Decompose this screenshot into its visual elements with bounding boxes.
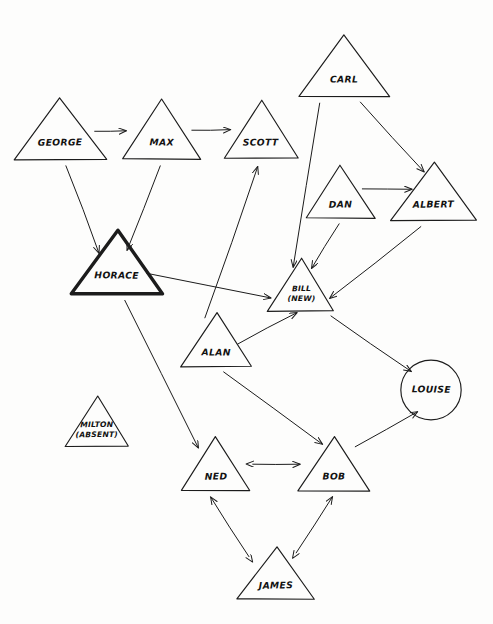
node-max[interactable]: MAX xyxy=(123,99,201,159)
edge-line xyxy=(192,130,231,131)
node-james[interactable]: JAMES xyxy=(237,547,314,599)
triangle-shape xyxy=(306,165,375,218)
edge-line xyxy=(312,224,339,268)
node-alan[interactable]: ALAN xyxy=(181,313,252,367)
node-sublabel: (ABSENT) xyxy=(76,430,118,439)
triangle-shape xyxy=(299,35,390,97)
node-layer: GEORGEMAXSCOTTCARLDANALBERTHORACEBILL(NE… xyxy=(14,35,476,599)
edge-line xyxy=(205,167,258,318)
node-label: MILTON xyxy=(80,420,114,429)
edge-carl-to-albert xyxy=(360,102,424,172)
edge-line xyxy=(360,102,424,172)
edge-george-to-horace xyxy=(66,166,99,253)
edge-line xyxy=(296,497,332,553)
edge-layer xyxy=(66,102,424,557)
node-label: ALBERT xyxy=(412,198,455,210)
node-horace[interactable]: HORACE xyxy=(71,230,162,294)
edge-james-to-bob xyxy=(296,497,332,553)
edge-line xyxy=(238,313,297,344)
node-louise[interactable]: LOUISE xyxy=(401,360,461,420)
triangle-shape xyxy=(14,98,107,160)
diagram-canvas: GEORGEMAXSCOTTCARLDANALBERTHORACEBILL(NE… xyxy=(0,0,493,624)
edge-line xyxy=(66,166,99,253)
edge-line xyxy=(211,497,249,557)
node-bill[interactable]: BILL(NEW) xyxy=(267,258,333,311)
edge-line xyxy=(224,372,323,444)
triangle-shape xyxy=(391,162,477,220)
edge-line xyxy=(95,131,126,132)
edge-alan-to-bill xyxy=(238,313,297,344)
node-carl[interactable]: CARL xyxy=(299,35,390,97)
node-label: HORACE xyxy=(94,269,139,280)
edge-albert-to-bill xyxy=(330,227,421,299)
node-label: MAX xyxy=(149,136,174,147)
edge-line xyxy=(127,166,160,250)
triangle-shape xyxy=(71,230,162,294)
sociogram-svg: GEORGEMAXSCOTTCARLDANALBERTHORACEBILL(NE… xyxy=(0,0,493,624)
edge-bob-to-louise xyxy=(355,412,417,447)
edge-carl-to-bill xyxy=(293,103,320,267)
node-label: ALAN xyxy=(201,346,231,357)
node-label: NED xyxy=(205,470,228,481)
node-albert[interactable]: ALBERT xyxy=(391,162,477,220)
edge-line xyxy=(355,412,417,447)
edge-line xyxy=(293,103,320,267)
node-label: JAMES xyxy=(257,579,294,591)
node-label: BILL xyxy=(292,284,311,293)
edge-james-to-ned xyxy=(211,497,249,557)
node-label: DAN xyxy=(329,198,353,209)
edge-bill-to-louise xyxy=(331,316,411,371)
node-label: GEORGE xyxy=(38,136,83,147)
edge-max-to-horace xyxy=(127,166,160,250)
edge-line xyxy=(147,273,271,298)
node-label: SCOTT xyxy=(243,136,279,147)
edge-max-to-scott xyxy=(192,130,231,131)
triangle-shape xyxy=(181,437,249,491)
edge-line xyxy=(125,300,198,447)
triangle-shape xyxy=(224,100,298,158)
node-sublabel: (NEW) xyxy=(288,294,316,303)
edge-alan-to-bob xyxy=(224,372,323,444)
node-scott[interactable]: SCOTT xyxy=(224,100,298,158)
triangle-shape xyxy=(237,547,314,599)
edge-george-to-max xyxy=(95,131,126,132)
node-dan[interactable]: DAN xyxy=(306,165,375,218)
node-ned[interactable]: NED xyxy=(181,437,249,491)
edge-line xyxy=(331,316,411,371)
edge-alan-to-scott xyxy=(205,167,258,318)
edge-horace-to-ned xyxy=(125,300,198,447)
node-george[interactable]: GEORGE xyxy=(14,98,107,160)
triangle-shape xyxy=(181,313,252,367)
node-label: BOB xyxy=(323,470,346,481)
edge-line xyxy=(330,227,421,299)
edge-horace-to-bill xyxy=(147,273,271,298)
node-milton[interactable]: MILTON(ABSENT) xyxy=(65,396,128,447)
triangle-shape xyxy=(123,99,201,159)
node-label: CARL xyxy=(330,73,358,84)
edge-dan-to-bill xyxy=(312,224,339,268)
node-label: LOUISE xyxy=(412,383,452,394)
